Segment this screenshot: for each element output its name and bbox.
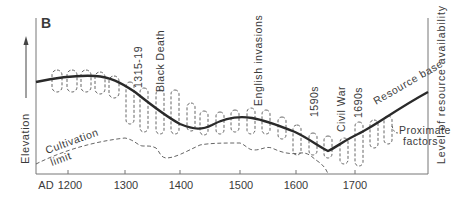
- event-1315-19: 1315-19: [132, 46, 144, 88]
- x-ticks: [68, 170, 355, 174]
- event-1590s: 1590s: [308, 86, 320, 117]
- elevation-axis: Elevation: [19, 36, 31, 164]
- elevation-label: Elevation: [19, 113, 31, 164]
- event-labels: 1315-19 Black Death English invasions 15…: [132, 15, 364, 132]
- panel-label: B: [41, 15, 51, 31]
- axes-frame: [36, 18, 428, 174]
- x-tick-1600: 1600: [284, 179, 308, 191]
- x-tick-1300: 1300: [114, 179, 138, 191]
- x-tick-1200: 1200: [58, 179, 82, 191]
- x-tick-1400: 1400: [169, 179, 193, 191]
- event-1690s: 1690s: [352, 87, 364, 118]
- cultivation-limit-label: Cultivation limit: [44, 126, 100, 168]
- x-tick-1700: 1700: [343, 179, 367, 191]
- svg-text:factors: factors: [403, 135, 438, 147]
- x-tick-labels: AD 1200 1300 1400 1500 1600 1700: [38, 179, 367, 191]
- event-english-invasions: English invasions: [252, 15, 264, 106]
- resource-availability-diagram: B AD 1200 1300 1400 1500 1600 1700 Eleva…: [0, 0, 462, 198]
- svg-text:Cultivation: Cultivation: [44, 126, 100, 156]
- x-tick-1500: 1500: [229, 179, 253, 191]
- resource-base-label-line1: Resource base: [371, 57, 445, 107]
- event-black-death: Black Death: [154, 30, 166, 92]
- event-civil-war: Civil War: [335, 86, 347, 132]
- x-axis-prefix: AD: [38, 179, 53, 191]
- arrow-up-icon: [24, 36, 29, 45]
